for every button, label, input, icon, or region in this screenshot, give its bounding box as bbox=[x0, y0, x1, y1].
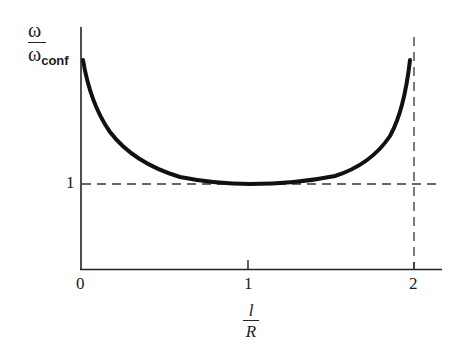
y-label-numerator: ω bbox=[22, 22, 72, 38]
x-label-denominator: R bbox=[240, 323, 262, 340]
y-label-subscript: conf bbox=[41, 53, 68, 68]
x-tick-label-0: 0 bbox=[76, 274, 85, 294]
x-axis-label: l R bbox=[240, 303, 262, 340]
x-tick-label-1: 1 bbox=[244, 274, 253, 294]
y-axis-label: ω ωconf bbox=[22, 22, 72, 70]
y-tick-label-1: 1 bbox=[66, 173, 75, 193]
x-label-numerator: l bbox=[240, 303, 262, 318]
data-curve bbox=[83, 60, 410, 184]
x-tick-label-2: 2 bbox=[409, 274, 418, 294]
y-label-denominator: ωconf bbox=[22, 45, 72, 70]
y-label-den-symbol: ω bbox=[28, 43, 41, 65]
fraction-bar bbox=[243, 320, 259, 321]
